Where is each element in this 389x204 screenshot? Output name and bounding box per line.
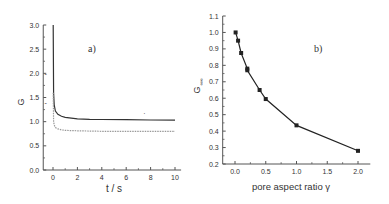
y-tick-label: 1.5 bbox=[30, 94, 40, 101]
chart-b: 0.20.30.40.50.60.70.80.91.01.10.00.51.01… bbox=[192, 13, 370, 193]
x-tick-label: 0.5 bbox=[261, 168, 271, 175]
panel-label: b) bbox=[314, 43, 322, 55]
data-point bbox=[245, 68, 249, 72]
x-tick-label: 6 bbox=[124, 174, 128, 181]
data-point bbox=[295, 123, 299, 127]
y-tick-label: 3.0 bbox=[30, 22, 40, 29]
x-tick-label: 2 bbox=[75, 174, 79, 181]
y-axis-label: G bbox=[16, 98, 26, 105]
series-line bbox=[53, 93, 175, 132]
y-tick-label: 1.1 bbox=[209, 13, 219, 20]
y-tick-label: 0.5 bbox=[209, 111, 219, 118]
y-tick-label: 0.0 bbox=[30, 167, 40, 174]
svg-text:∞∞: ∞∞ bbox=[198, 78, 204, 86]
x-tick-label: 10 bbox=[171, 174, 179, 181]
series-line bbox=[236, 32, 358, 150]
y-tick-label: 0.7 bbox=[209, 78, 219, 85]
y-tick-label: 2.0 bbox=[30, 70, 40, 77]
series-line bbox=[53, 25, 175, 120]
x-axis-label: t / s bbox=[106, 183, 122, 194]
panel-label: a) bbox=[88, 43, 96, 55]
data-point bbox=[258, 88, 262, 92]
x-tick-label: 8 bbox=[149, 174, 153, 181]
chart-a: 0.00.51.01.52.02.53.00246810--·a)t / sG bbox=[16, 22, 181, 195]
data-point bbox=[239, 51, 243, 55]
x-tick-label: 1.5 bbox=[322, 168, 332, 175]
data-point bbox=[264, 97, 268, 101]
data-point bbox=[356, 149, 360, 153]
y-tick-label: 0.9 bbox=[209, 45, 219, 52]
svg-text:·: · bbox=[143, 110, 145, 117]
x-tick-label: 0.0 bbox=[230, 168, 240, 175]
y-tick-label: 0.3 bbox=[209, 144, 219, 151]
data-point bbox=[236, 39, 240, 43]
svg-text:-: - bbox=[45, 70, 48, 77]
x-axis-label: pore aspect ratio γ bbox=[252, 181, 330, 192]
svg-text:-: - bbox=[45, 99, 48, 106]
figure: 0.00.51.01.52.02.53.00246810--·a)t / sG … bbox=[0, 0, 389, 204]
y-tick-label: 0.6 bbox=[209, 95, 219, 102]
data-point bbox=[234, 30, 238, 34]
y-tick-label: 0.8 bbox=[209, 62, 219, 69]
y-tick-label: 0.5 bbox=[30, 142, 40, 149]
y-tick-label: 1.0 bbox=[30, 118, 40, 125]
y-tick-label: 1.0 bbox=[209, 29, 219, 36]
x-tick-label: 2.0 bbox=[353, 168, 363, 175]
y-tick-label: 2.5 bbox=[30, 46, 40, 53]
y-tick-label: 0.2 bbox=[209, 161, 219, 168]
x-tick-label: 4 bbox=[100, 174, 104, 181]
x-tick-label: 0 bbox=[51, 174, 55, 181]
y-axis-label: G bbox=[192, 86, 202, 93]
x-tick-label: 1.0 bbox=[292, 168, 302, 175]
y-tick-label: 0.4 bbox=[209, 128, 219, 135]
